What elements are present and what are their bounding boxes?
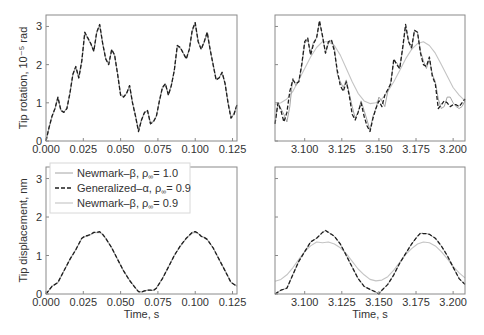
x-tick-label: 0.100	[181, 143, 209, 155]
panel-tip-displacement-end: 3.1003.1253.1503.1753.200Time, s	[275, 167, 467, 320]
y-tick-label: 1	[36, 250, 42, 262]
y-tick-label: 0	[36, 135, 42, 147]
y-tick-label: 3	[36, 173, 42, 185]
y-tick-label: 2	[36, 211, 42, 223]
x-tick-label: 3.125	[328, 296, 356, 308]
x-tick-label: 0.050	[107, 296, 135, 308]
y-axis-label: Tip rotation, 10⁻⁵ rad	[17, 27, 29, 129]
y-axis-label: Tip displacement, nm	[17, 178, 29, 282]
x-tick-label: 0.025	[70, 143, 98, 155]
figure: 0.0000.0250.0500.0750.1000.1250123Tip ro…	[0, 0, 484, 335]
x-tick-label: 3.125	[328, 143, 356, 155]
x-tick-label: 3.100	[291, 296, 319, 308]
x-tick-label: 3.200	[439, 296, 467, 308]
x-tick-label: 3.200	[439, 143, 467, 155]
x-tick-label: 3.100	[291, 143, 319, 155]
series-generalized-alpha	[275, 21, 465, 132]
legend-label: Newmark–β, ρ∞= 0.9	[77, 197, 178, 210]
x-tick-label: 0.075	[144, 296, 172, 308]
series-newmark-1-0	[275, 231, 465, 295]
legend-label: Generalized–α, ρ∞= 0.9	[77, 182, 191, 195]
panel-tip-rotation-start: 0.0000.0250.0500.0750.1000.1250123Tip ro…	[17, 15, 246, 155]
x-tick-label: 3.150	[365, 143, 393, 155]
x-tick-label: 0.075	[144, 143, 172, 155]
y-tick-label: 2	[36, 59, 42, 71]
x-axis-label: Time, s	[124, 308, 160, 320]
y-tick-label: 3	[36, 20, 42, 32]
y-tick-label: 0	[36, 288, 42, 300]
series-generalized-alpha	[46, 23, 237, 141]
x-tick-label: 0.125	[219, 143, 247, 155]
x-tick-label: 0.025	[70, 296, 98, 308]
legend: Newmark–β, ρ∞= 1.0Generalized–α, ρ∞= 0.9…	[50, 163, 191, 213]
x-axis-label: Time, s	[352, 308, 388, 320]
plot-frame	[275, 167, 465, 294]
plot-frame	[275, 15, 465, 141]
x-tick-label: 3.175	[402, 296, 430, 308]
series-newmark-0-9	[275, 242, 465, 281]
series-newmark-1-0	[275, 23, 465, 131]
x-tick-label: 3.175	[402, 143, 430, 155]
legend-label: Newmark–β, ρ∞= 1.0	[77, 167, 178, 180]
y-tick-label: 1	[36, 97, 42, 109]
x-tick-label: 0.125	[219, 296, 247, 308]
x-tick-label: 0.050	[107, 143, 135, 155]
panel-tip-rotation-end: 3.1003.1253.1503.1753.200	[275, 15, 467, 155]
series-newmark-1-0	[46, 232, 237, 294]
x-tick-label: 0.100	[181, 296, 209, 308]
plot-frame	[46, 15, 237, 141]
x-tick-label: 3.150	[365, 296, 393, 308]
